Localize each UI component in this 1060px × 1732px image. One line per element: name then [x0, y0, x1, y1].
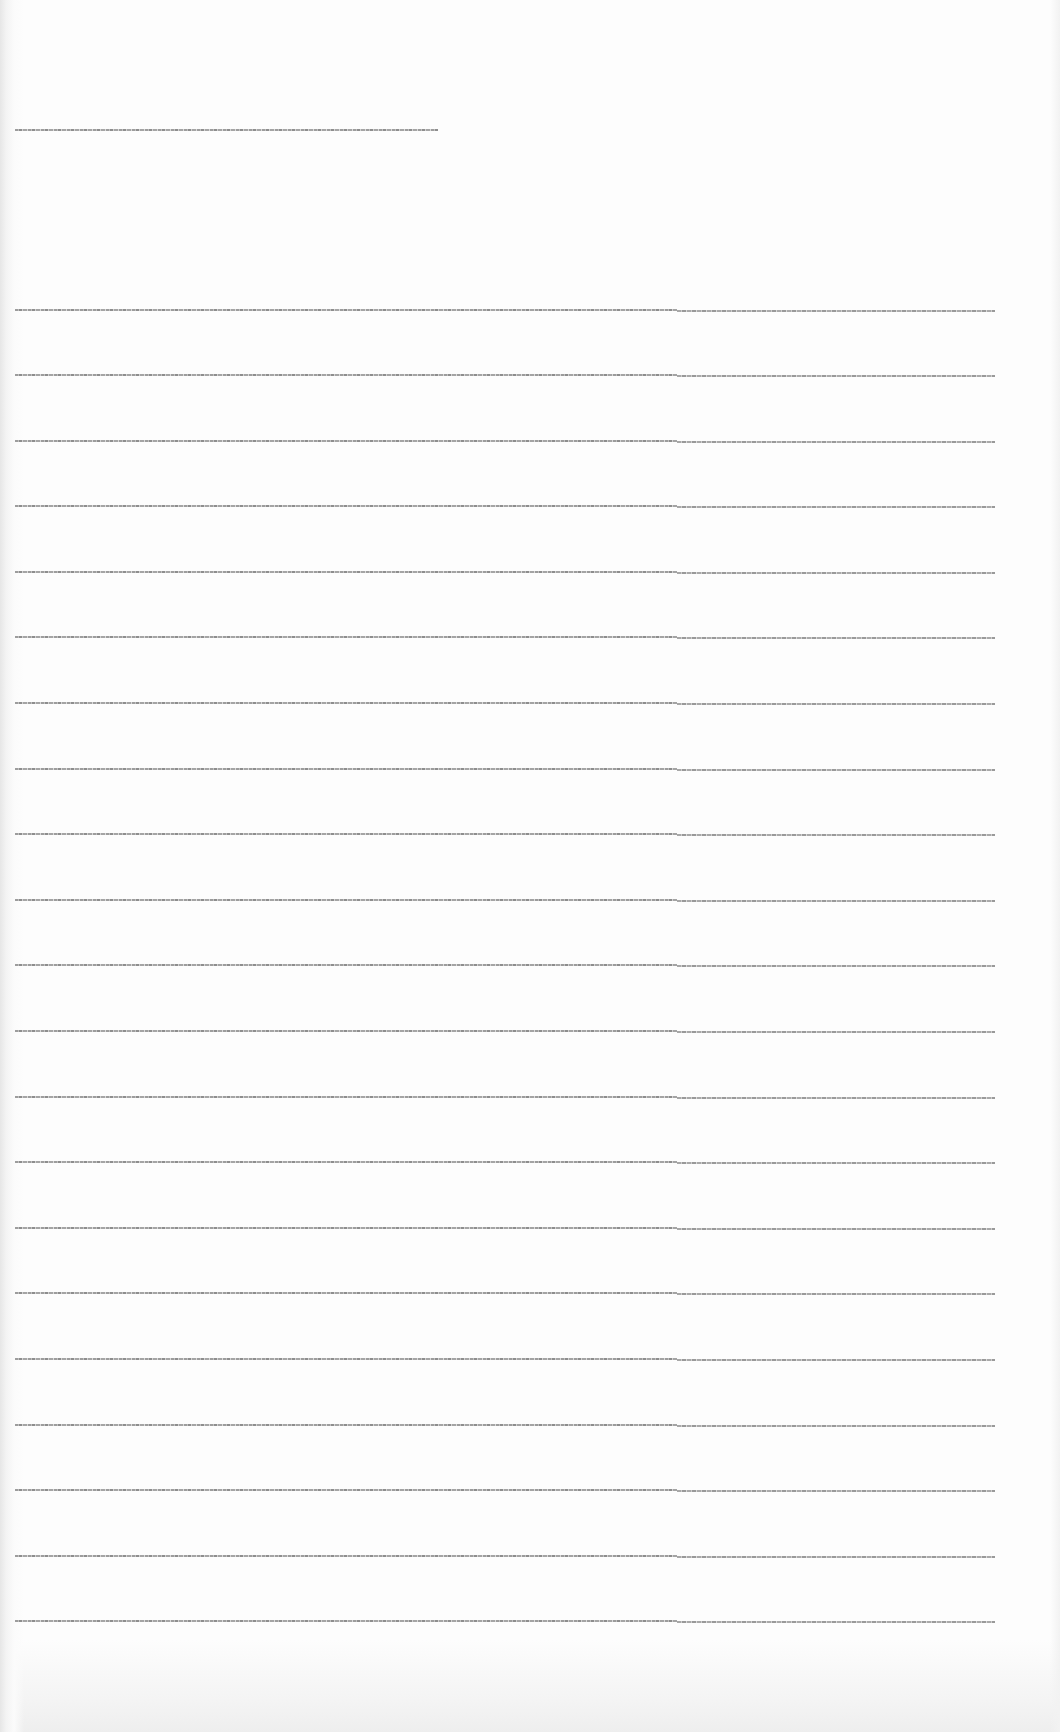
body-text-line-tail	[677, 900, 995, 902]
body-text-line-tail	[677, 769, 995, 771]
body-text: [illegible]	[15, 1424, 16, 1425]
body-text-line: [illegible]	[15, 1489, 677, 1491]
body-text: [illegible]	[15, 1096, 16, 1097]
body-text-line: [illegible]	[15, 505, 677, 507]
body-text: [illegible]	[15, 1292, 16, 1293]
body-text: [illegible]	[15, 309, 16, 310]
body-text: [illegible]	[15, 899, 16, 900]
body-text-line-tail	[677, 1293, 995, 1295]
body-text-line-tail	[677, 1031, 995, 1033]
body-text-line-tail	[677, 1097, 995, 1099]
body-text: [illegible]	[15, 1489, 16, 1490]
body-text-line-tail	[677, 1359, 995, 1361]
body-text: [illegible]	[15, 440, 16, 441]
body-text-line: [illegible]	[15, 702, 677, 704]
body-text-line-tail	[677, 441, 995, 443]
body-text: [illegible]	[15, 1358, 16, 1359]
body-text: [illegible]	[15, 1620, 16, 1621]
document-page: [illegible] [illegible][illegible][illeg…	[0, 0, 1060, 1732]
body-text-line: [illegible]	[15, 768, 677, 770]
body-text-line: [illegible]	[15, 1161, 677, 1163]
body-text-line-tail	[677, 375, 995, 377]
body-text-line-tail	[677, 1621, 995, 1623]
body-text-line-tail	[677, 506, 995, 508]
header-text: [illegible]	[15, 129, 16, 130]
body-text: [illegible]	[15, 636, 16, 637]
body-text-line: [illegible]	[15, 1292, 677, 1294]
body-text-line: [illegible]	[15, 1227, 677, 1229]
body-text: [illegible]	[15, 833, 16, 834]
body-text-line-tail	[677, 965, 995, 967]
body-text: [illegible]	[15, 768, 16, 769]
body-text-line: [illegible]	[15, 309, 677, 311]
header-text-line: [illegible]	[15, 129, 438, 131]
body-text-line-tail	[677, 1228, 995, 1230]
body-text-line: [illegible]	[15, 1358, 677, 1360]
body-text: [illegible]	[15, 1227, 16, 1228]
body-text: [illegible]	[15, 374, 16, 375]
body-text-line: [illegible]	[15, 1620, 677, 1622]
body-text-line-tail	[677, 703, 995, 705]
body-text-line: [illegible]	[15, 964, 677, 966]
body-text-line-tail	[677, 572, 995, 574]
body-text-line-tail	[677, 1490, 995, 1492]
body-text-line-tail	[677, 1162, 995, 1164]
body-text-line: [illegible]	[15, 440, 677, 442]
body-text-line-tail	[677, 637, 995, 639]
body-text: [illegible]	[15, 1555, 16, 1556]
body-text-line: [illegible]	[15, 1424, 677, 1426]
page-edge-shadow	[1050, 0, 1060, 1732]
body-text-line: [illegible]	[15, 1555, 677, 1557]
body-text-line: [illegible]	[15, 374, 677, 376]
body-text-line-tail	[677, 1556, 995, 1558]
body-text-line-tail	[677, 1425, 995, 1427]
body-text: [illegible]	[15, 702, 16, 703]
body-text-line-tail	[677, 310, 995, 312]
body-text: [illegible]	[15, 1030, 16, 1031]
body-text-line: [illegible]	[15, 833, 677, 835]
body-text-line: [illegible]	[15, 1030, 677, 1032]
body-text-line: [illegible]	[15, 571, 677, 573]
body-text: [illegible]	[15, 571, 16, 572]
body-text: [illegible]	[15, 964, 16, 965]
body-text-line: [illegible]	[15, 1096, 677, 1098]
body-text-line: [illegible]	[15, 636, 677, 638]
body-text-line-tail	[677, 834, 995, 836]
body-text: [illegible]	[15, 505, 16, 506]
body-text-line: [illegible]	[15, 899, 677, 901]
body-text: [illegible]	[15, 1161, 16, 1162]
